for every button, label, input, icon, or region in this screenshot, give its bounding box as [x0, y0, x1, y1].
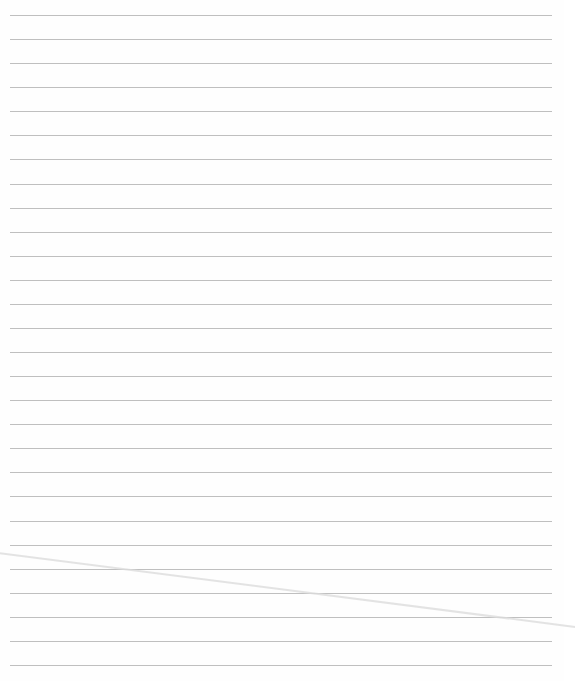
- ruled-line: [10, 521, 552, 522]
- ruled-line: [10, 472, 552, 473]
- ruled-line: [10, 63, 552, 64]
- ruled-line: [10, 569, 552, 570]
- ruled-line: [10, 400, 552, 401]
- ruled-line: [10, 665, 552, 666]
- ruled-line: [10, 641, 552, 642]
- ruled-line: [10, 232, 552, 233]
- ruled-line: [10, 39, 552, 40]
- ruled-line: [10, 593, 552, 594]
- ruled-line: [10, 135, 552, 136]
- ruled-line: [10, 280, 552, 281]
- ruled-line: [10, 111, 552, 112]
- ruled-line: [10, 159, 552, 160]
- ruled-line: [10, 352, 552, 353]
- ruled-line: [10, 617, 552, 618]
- ruled-line: [10, 496, 552, 497]
- ruled-line: [10, 424, 552, 425]
- ruled-line: [10, 328, 552, 329]
- ruled-line: [10, 304, 552, 305]
- ruled-line: [10, 208, 552, 209]
- ruled-line: [10, 15, 552, 16]
- ruled-line: [10, 87, 552, 88]
- ruled-line: [10, 448, 552, 449]
- ruled-line: [10, 545, 552, 546]
- ruled-line: [10, 184, 552, 185]
- ruled-line: [10, 376, 552, 377]
- ruled-line: [10, 256, 552, 257]
